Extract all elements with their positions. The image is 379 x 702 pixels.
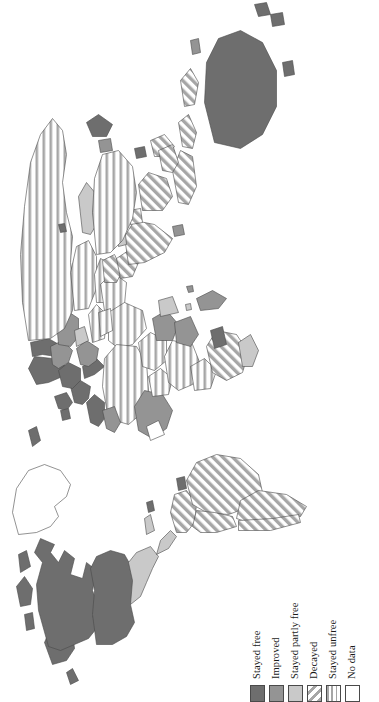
legend-item-no-data: No data bbox=[343, 588, 362, 702]
legend-item-decayed: Decayed bbox=[305, 588, 324, 702]
region-iraq-syria bbox=[98, 308, 112, 336]
legend-swatch-stayed-unfree bbox=[326, 685, 341, 702]
legend-item-stayed-unfree: Stayed unfree bbox=[324, 588, 343, 702]
region-tasmania bbox=[282, 60, 294, 76]
figure-page: Stayed free Improved Stayed partly free … bbox=[0, 0, 379, 702]
region-new-zealand-2 bbox=[270, 12, 284, 26]
legend-rows: Stayed free Improved Stayed partly free … bbox=[248, 588, 378, 702]
legend-label-improved: Improved bbox=[271, 637, 282, 679]
legend-container: Stayed free Improved Stayed partly free … bbox=[248, 588, 378, 702]
legend-label-no-data: No data bbox=[347, 645, 358, 679]
region-korea bbox=[98, 138, 112, 152]
legend-label-stayed-free: Stayed free bbox=[252, 630, 263, 679]
legend-item-improved: Improved bbox=[267, 588, 286, 702]
legend-item-stayed-free: Stayed free bbox=[248, 588, 267, 702]
legend-label-decayed: Decayed bbox=[309, 642, 320, 679]
legend-label-stayed-unfree: Stayed unfree bbox=[328, 620, 339, 679]
region-united-states bbox=[90, 550, 134, 644]
legend-label-stayed-partly-free: Stayed partly free bbox=[290, 603, 301, 679]
legend-swatch-stayed-partly-free bbox=[288, 685, 303, 702]
legend-item-stayed-partly-free: Stayed partly free bbox=[286, 588, 305, 702]
legend-swatch-no-data bbox=[345, 685, 360, 702]
legend-swatch-improved bbox=[269, 685, 284, 702]
legend-swatch-stayed-free bbox=[250, 685, 265, 702]
legend-swatch-decayed bbox=[307, 685, 322, 702]
